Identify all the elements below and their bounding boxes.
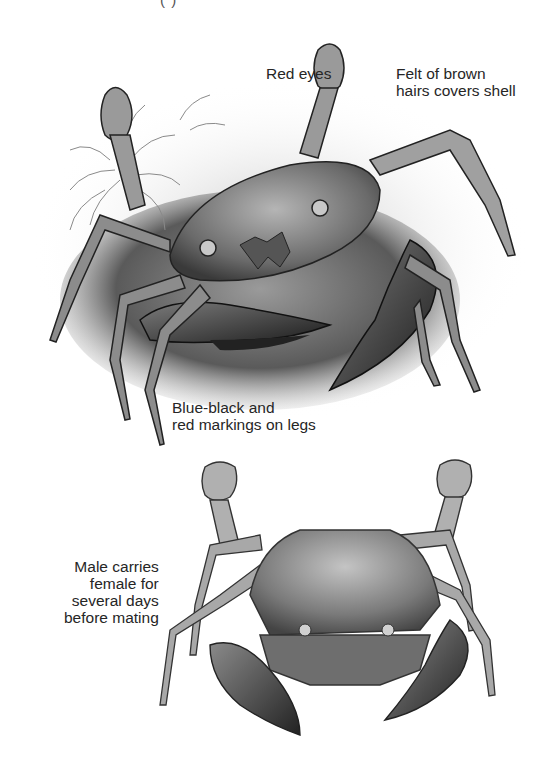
label-line: Felt of brown: [396, 65, 516, 82]
label-felt-of-brown-hairs: Felt of brown hairs covers shell: [396, 65, 516, 99]
label-line: before mating: [64, 609, 159, 626]
label-line: Male carries: [64, 558, 159, 575]
label-line: Blue-black and: [172, 399, 316, 416]
eye-right: [312, 200, 328, 216]
crab-illustration-top: [30, 40, 530, 450]
eye-left: [200, 240, 216, 256]
label-red-eyes: Red eyes: [266, 65, 331, 82]
label-blue-black-markings: Blue-black and red markings on legs: [172, 399, 316, 433]
crab-illustration-bottom: [150, 455, 510, 755]
eye-left: [299, 624, 311, 636]
female-carapace: [260, 635, 430, 685]
label-line: several days: [64, 592, 159, 609]
label-line: red markings on legs: [172, 416, 316, 433]
eye-right: [382, 624, 394, 636]
label-line: Red eyes: [266, 65, 331, 82]
cropped-caption: ( ): [160, 0, 177, 8]
male-carapace: [250, 530, 440, 635]
label-male-carries-female: Male carries female for several days bef…: [64, 558, 159, 626]
label-line: female for: [64, 575, 159, 592]
label-line: hairs covers shell: [396, 82, 516, 99]
